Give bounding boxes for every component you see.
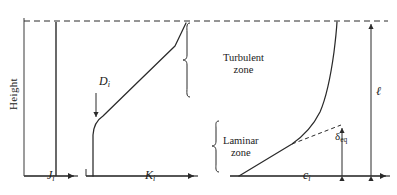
height-axis-label: Height: [7, 64, 19, 124]
tangent-extrapolation-dashed-line: [292, 125, 341, 144]
turbulent-zone-label-line1: Turbulent: [223, 52, 264, 63]
panel1-x-axis-label: Ji: [47, 168, 55, 183]
panel3-x-axis-label: ci: [303, 168, 311, 183]
panel2-x-axis-label: Ki: [145, 168, 155, 183]
delta-subscript: eq: [340, 135, 347, 144]
panel2-x-axis-subscript: i: [153, 174, 155, 183]
laminar-zone-label: Laminarzone: [223, 135, 259, 159]
panel3-x-axis-subscript: i: [308, 174, 310, 183]
curve-k-i: [93, 23, 186, 176]
diffusion-coefficient-label: Di: [99, 74, 110, 89]
panel2-x-axis-symbol: K: [145, 168, 153, 182]
turbulent-zone-bracket: [183, 23, 190, 97]
ell-label: ℓ: [376, 84, 381, 99]
diffusion-coefficient-subscript: i: [108, 80, 110, 89]
laminar-zone-bracket: [212, 121, 219, 172]
laminar-zone-label-line1: Laminar: [223, 135, 259, 146]
turbulent-zone-label: Turbulentzone: [223, 52, 264, 76]
figure-canvas: [0, 0, 397, 195]
panel1-x-axis-subscript: i: [52, 174, 54, 183]
delta-eq-label: δeq: [335, 130, 347, 144]
diffusion-coefficient-symbol: D: [99, 74, 108, 88]
laminar-zone-label-line2: zone: [231, 147, 251, 158]
turbulent-zone-label-line2: zone: [234, 64, 254, 75]
boundary-layer-profile-figure: Height Ji Ki ci Di Turbulentzone Laminar…: [0, 0, 397, 195]
